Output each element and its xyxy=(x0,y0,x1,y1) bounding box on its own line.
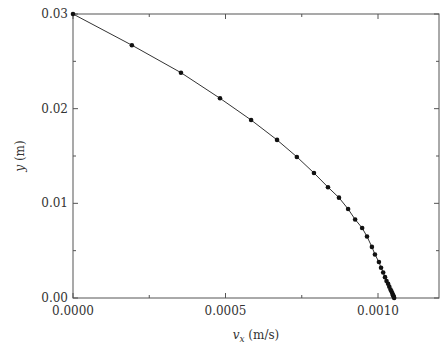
series-line xyxy=(73,14,394,298)
data-point xyxy=(326,185,331,190)
data-point xyxy=(370,245,375,250)
data-point xyxy=(392,296,397,301)
y-axis-label: y (m) xyxy=(13,140,27,172)
x-axis-label: vx (m/s) xyxy=(233,328,280,344)
x-tick-label: 0.0005 xyxy=(205,304,247,318)
axis-ticks xyxy=(73,14,439,298)
data-point xyxy=(377,260,382,265)
x-tick-labels: 0.00000.00050.0010 xyxy=(52,304,399,318)
data-point xyxy=(312,171,317,176)
data-point xyxy=(365,234,370,239)
y-tick-label: 0.01 xyxy=(41,196,68,210)
y-tick-label: 0.03 xyxy=(41,7,68,21)
y-tick-label: 0.02 xyxy=(41,102,68,116)
chart: 0.00000.00050.0010 0.000.010.020.03 vx (… xyxy=(0,0,448,354)
data-point xyxy=(337,195,342,200)
data-point xyxy=(295,155,300,160)
data-point xyxy=(346,207,351,212)
x-tick-label: 0.0000 xyxy=(52,304,94,318)
data-point xyxy=(373,252,378,257)
data-point xyxy=(130,43,135,48)
data-point xyxy=(353,217,358,222)
data-point xyxy=(275,138,280,143)
data-point xyxy=(379,265,384,270)
data-point xyxy=(381,270,386,275)
plot-frame xyxy=(73,14,439,298)
data-point xyxy=(218,96,223,101)
x-tick-label: 0.0010 xyxy=(357,304,399,318)
y-tick-labels: 0.000.010.020.03 xyxy=(41,7,68,305)
data-series xyxy=(71,12,397,301)
data-point xyxy=(360,226,365,231)
data-point xyxy=(249,118,254,123)
data-point xyxy=(71,12,76,17)
y-tick-label: 0.00 xyxy=(41,291,68,305)
data-point xyxy=(179,70,184,75)
